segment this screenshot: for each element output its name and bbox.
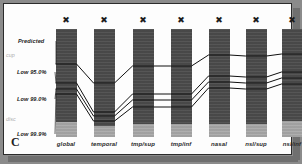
annotation-leaders-layer	[4, 4, 293, 156]
annotation-label: Predicted	[18, 38, 44, 44]
cross-marker-icon: ✖	[62, 16, 70, 25]
annotation-leader-line	[55, 94, 56, 134]
axis-side-label: disc	[6, 116, 16, 122]
card-shadow-bottom	[8, 156, 298, 162]
axis-side-label: cup	[6, 52, 15, 58]
cross-marker-icon: ✖	[139, 16, 147, 25]
cross-marker-icon: ✖	[288, 16, 296, 25]
cross-marker-icon: ✖	[177, 16, 185, 25]
category-label: temporal	[91, 141, 117, 147]
category-label: nsl/sup	[245, 141, 267, 147]
category-label: global	[57, 141, 75, 147]
annotation-leader-line	[55, 72, 56, 83]
cross-marker-icon: ✖	[100, 16, 108, 25]
cross-marker-icon: ✖	[252, 16, 260, 25]
plot-card: ✖✖✖✖✖✖✖ globaltemporaltmp/suptmp/infnasa…	[3, 3, 292, 155]
annotation-label: Low 99.9%	[17, 131, 47, 137]
category-label: nsl/inf	[283, 141, 301, 147]
annotation-label: Low 95.0%	[17, 69, 47, 75]
figure-panel: ✖✖✖✖✖✖✖ globaltemporaltmp/suptmp/infnasa…	[0, 0, 302, 164]
cross-marker-icon: ✖	[215, 16, 223, 25]
category-label: nasal	[211, 141, 227, 147]
category-label: tmp/sup	[131, 141, 155, 147]
parallel-coordinates-plot: ✖✖✖✖✖✖✖ globaltemporaltmp/suptmp/infnasa…	[4, 4, 293, 156]
category-label: tmp/inf	[171, 141, 192, 147]
annotation-label: Low 99.0%	[17, 96, 47, 102]
panel-letter: C	[11, 135, 20, 150]
